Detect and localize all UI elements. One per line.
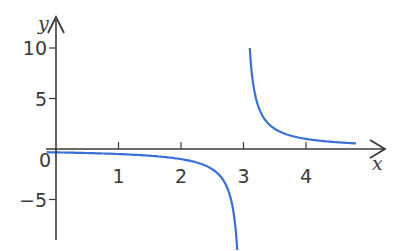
x-tick-label: 2 [175, 165, 187, 187]
chart: x y 01234105−5 [0, 0, 397, 251]
x-tick-label: 4 [300, 165, 312, 187]
y-tick-label: −5 [19, 189, 47, 211]
x-tick-label: 0 [39, 149, 51, 171]
x-axis: x [46, 140, 385, 174]
x-tick-label: 1 [112, 165, 124, 187]
y-tick-label: 5 [35, 88, 47, 110]
curve-branch [250, 48, 356, 143]
y-axis-label: y [37, 12, 49, 34]
x-tick-label: 3 [237, 165, 249, 187]
curve-branch [47, 152, 238, 250]
y-tick-label: 10 [23, 37, 47, 59]
x-axis-label: x [372, 152, 383, 174]
